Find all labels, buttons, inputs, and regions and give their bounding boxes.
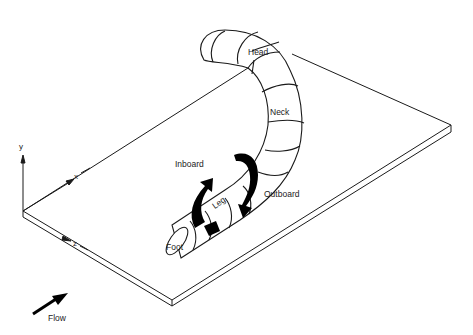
diagram-canvas: y x z Head Neck Leg Inb	[0, 0, 473, 335]
diagram-svg: y x z Head Neck Leg Inb	[0, 0, 473, 335]
flat-plate	[23, 54, 451, 306]
flow-label: Flow	[48, 313, 67, 323]
flow-arrow-icon	[33, 293, 68, 314]
coordinate-axes	[21, 155, 90, 250]
vortex-body	[162, 30, 304, 258]
foot-label: Foot	[166, 242, 184, 252]
x-axis-label: x	[74, 172, 78, 181]
z-axis-label: z	[73, 239, 77, 248]
head-label: Head	[248, 47, 269, 57]
neck-label: Neck	[270, 107, 290, 117]
x-axis	[23, 182, 70, 211]
y-axis-label: y	[19, 142, 23, 151]
y-axis-arrowhead-icon	[21, 155, 25, 163]
outboard-label: Outboard	[264, 189, 300, 199]
inboard-label: Inboard	[175, 159, 204, 169]
